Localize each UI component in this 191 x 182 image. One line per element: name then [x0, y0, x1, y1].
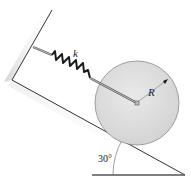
spring-constant-label: k [73, 47, 79, 59]
spring-rod-wall-highlight [33, 47, 52, 55]
wall-line [12, 10, 52, 80]
radius-label: R [147, 86, 155, 98]
disk-center-pin [135, 101, 139, 105]
spring-coil [52, 51, 90, 78]
wall-shading [4, 10, 52, 82]
incline-spring-disk-diagram: k R 30° [0, 0, 191, 182]
angle-label: 30° [98, 153, 112, 164]
